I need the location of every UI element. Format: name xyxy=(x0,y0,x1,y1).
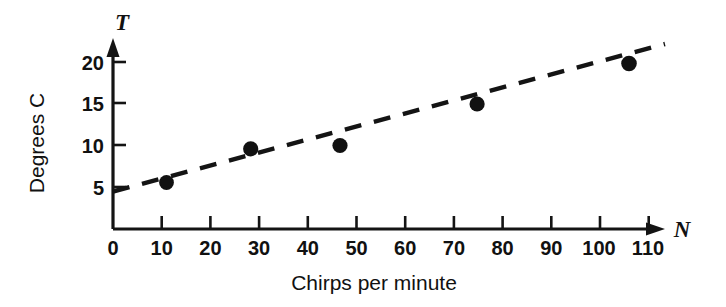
y-tick-label-20: 20 xyxy=(82,52,104,74)
y-axis-title: Degrees C xyxy=(25,93,48,193)
chart-figure: 20 15 10 5 0 10 20 30 40 50 60 70 80 90 … xyxy=(0,0,726,307)
x-tick-label-80: 80 xyxy=(491,237,513,259)
y-axis-symbol: T xyxy=(115,10,130,35)
y-tick-label-5: 5 xyxy=(93,177,104,199)
data-point xyxy=(159,175,174,190)
data-point xyxy=(621,56,637,72)
data-points-group xyxy=(159,56,637,190)
x-tick-label-30: 30 xyxy=(248,237,270,259)
x-tick-label-60: 60 xyxy=(394,237,416,259)
x-tick-label-40: 40 xyxy=(297,237,319,259)
data-point xyxy=(470,96,485,111)
origin-label: 0 xyxy=(107,237,118,259)
y-tick-label-10: 10 xyxy=(82,135,104,157)
x-axis-title: Chirps per minute xyxy=(291,271,457,294)
y-tick-label-15: 15 xyxy=(82,93,104,115)
x-tick-label-90: 90 xyxy=(540,237,562,259)
x-axis-symbol: N xyxy=(673,217,692,242)
data-point xyxy=(332,138,347,153)
x-tick-label-20: 20 xyxy=(199,237,221,259)
x-tick-label-10: 10 xyxy=(151,237,173,259)
x-tick-label-100: 100 xyxy=(582,237,615,259)
trend-line xyxy=(113,44,665,192)
scatter-plot: 20 15 10 5 0 10 20 30 40 50 60 70 80 90 … xyxy=(0,0,726,307)
y-axis-group xyxy=(107,38,127,229)
y-axis-arrowhead xyxy=(107,38,120,57)
x-tick-label-50: 50 xyxy=(345,237,367,259)
x-tick-label-110: 110 xyxy=(632,237,664,259)
data-point xyxy=(243,141,258,156)
x-axis-group xyxy=(113,216,665,236)
x-tick-label-70: 70 xyxy=(443,237,465,259)
